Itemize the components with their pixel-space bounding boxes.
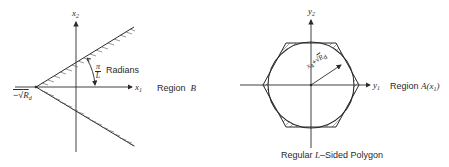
caption-suffix: –Sided Polygon (320, 150, 383, 160)
apex-label-sqrt: −√ (13, 90, 23, 100)
x1-axis-label: x1 (135, 83, 142, 93)
right-diagram (240, 20, 370, 148)
origin-point (310, 84, 312, 86)
region-a-name: A(x (421, 81, 434, 91)
y2-axis-label: y2 (308, 7, 315, 17)
region-a-label: Region A(x1) (390, 82, 440, 92)
x2-axis-label: x2 (72, 9, 79, 19)
apex-point (35, 86, 38, 89)
angle-fraction: π L (95, 63, 101, 80)
apex-label-sub: d (29, 95, 32, 101)
x1-label-sub: 1 (139, 87, 142, 93)
angle-arc (87, 59, 95, 85)
region-b-label: Region B (157, 84, 196, 93)
y1-axis-label: y1 (373, 81, 380, 91)
y2-label-sub: 2 (312, 11, 315, 17)
angle-unit-label: Radians (106, 66, 139, 75)
upper-boundary-line (36, 27, 134, 87)
region-b-word: Region (157, 83, 186, 93)
left-diagram (15, 22, 135, 152)
region-a-close: ) (437, 81, 440, 91)
apex-label: −√Rd (13, 91, 32, 101)
angle-arc-start-arrow (87, 58, 91, 62)
diagram-canvas (0, 0, 449, 167)
region-a-word: Region (390, 81, 419, 91)
angle-denominator: L (95, 72, 101, 80)
y1-label-sub: 1 (377, 85, 380, 91)
upper-hatching (42, 29, 135, 85)
polygon-caption: Regular L–Sided Polygon (281, 151, 383, 160)
caption-prefix: Regular (281, 150, 313, 160)
x2-label-sub: 2 (76, 13, 79, 19)
polygon-hatching (255, 25, 368, 132)
region-b-name: B (191, 83, 197, 93)
